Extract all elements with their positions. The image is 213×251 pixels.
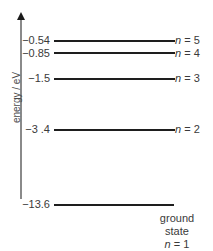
ground-state-label: ground state n = 1 [148,212,206,251]
energy-level-n3 [54,78,175,80]
energy-level-n1 [54,204,174,206]
axis-label: energy / eV [11,68,22,128]
n-symbol: n [175,34,181,46]
energy-value-n2: −3 .4 [25,123,50,135]
n-symbol: n [175,72,181,84]
level-label-n1: n = 1 [148,238,206,251]
level-label-n3: n = 3 [175,72,200,84]
level-label-n5: n = 5 [175,34,200,46]
energy-value-n4: −0.85 [22,47,50,59]
n-symbol: n [165,238,171,250]
n-value: = 5 [184,34,200,46]
energy-level-n4 [54,52,175,54]
n-symbol: n [175,47,181,59]
energy-level-n5 [54,40,175,42]
n-value: = 2 [184,123,200,135]
energy-value-n1: −13.6 [22,198,50,210]
energy-value-n3: −1.5 [28,72,50,84]
n-symbol: n [175,123,181,135]
n-value: = 3 [184,72,200,84]
n-value: = 1 [174,238,190,250]
energy-value-n5: −0.54 [22,34,50,46]
ground-state-text: ground state [148,212,206,238]
n-value: = 4 [184,47,200,59]
energy-level-n2 [54,129,175,131]
axis-arrow-icon [17,12,25,20]
level-label-n4: n = 4 [175,47,200,59]
level-label-n2: n = 2 [175,123,200,135]
